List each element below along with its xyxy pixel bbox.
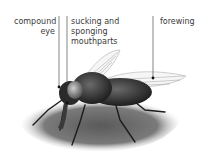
ground-shadow [20, 99, 182, 152]
leader-dot-forewing [152, 77, 155, 80]
leader-dot-mouthparts [66, 102, 69, 105]
compound-eye [67, 81, 83, 99]
leader-dot-compound-eye [58, 86, 61, 89]
housefly-illustration [0, 0, 197, 163]
